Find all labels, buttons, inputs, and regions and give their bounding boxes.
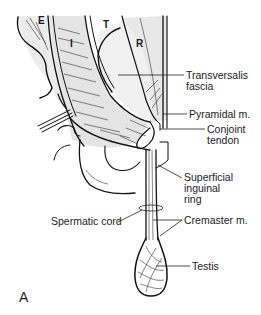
label-transversalis-line2: fascia [186,80,214,92]
inguinal-anatomy-illustration: E I T R Transversalis fascia Pyramidal m… [0,0,261,315]
label-cremaster: Cremaster m. [184,214,248,226]
label-ring-line3: ring [184,193,202,205]
anatomy-figure: E I T R Transversalis fascia Pyramidal m… [0,0,261,315]
panel-label: A [19,289,29,305]
label-external-oblique: E [38,15,45,26]
callout-transversalis-fascia: Transversalis fascia [186,69,248,92]
label-pyramidal: Pyramidal m. [189,108,250,120]
callout-pyramidal: Pyramidal m. [189,108,250,120]
label-rectus: R [136,38,144,49]
abdominal-wall-muscles [18,16,168,148]
callout-testis: Testis [192,260,219,272]
label-transversus: T [103,19,109,30]
callout-spermatic-cord: Spermatic cord [51,215,122,227]
callout-superficial-inguinal-ring: Superficial inguinal ring [184,171,233,205]
callout-cremaster: Cremaster m. [184,214,248,226]
testis-drawing [135,238,167,296]
label-conjoint-line2: tendon [207,134,239,146]
label-spermatic-cord: Spermatic cord [51,215,122,227]
callout-conjoint-tendon: Conjoint tendon [207,123,246,146]
spermatic-cord-drawing [139,150,163,240]
label-testis: Testis [192,260,219,272]
label-internal-oblique: I [70,38,73,49]
